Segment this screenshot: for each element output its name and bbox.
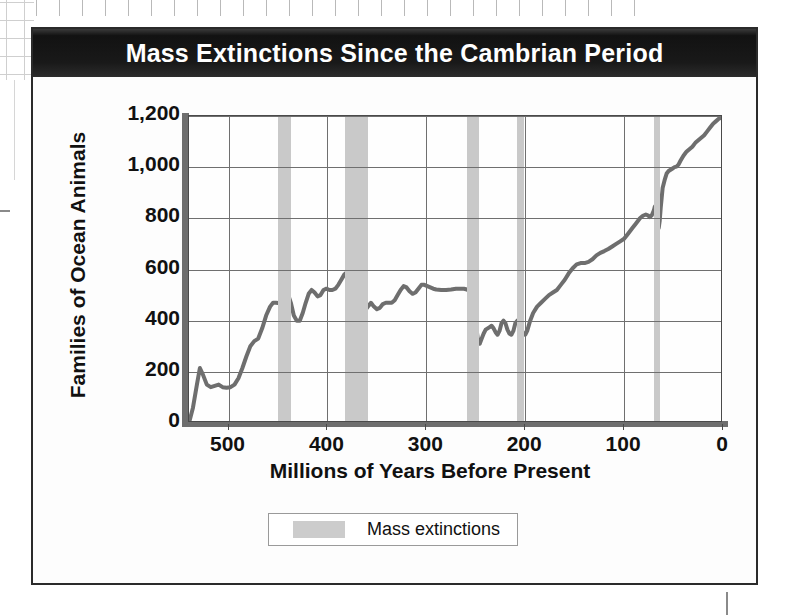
x-axis-tick-label: 0 xyxy=(677,432,767,456)
ruling-horizontal xyxy=(0,20,34,21)
ruling-horizontal xyxy=(0,56,34,57)
ruling-vertical xyxy=(6,0,7,80)
ruler-tick xyxy=(542,0,543,16)
mass-extinction-band xyxy=(278,116,291,421)
ruling-vertical xyxy=(24,0,25,80)
ruler-tick xyxy=(588,0,589,16)
legend-swatch-mass-extinctions xyxy=(293,521,345,538)
x-axis-tick-label: 100 xyxy=(578,432,668,456)
ruler-tick xyxy=(565,0,566,16)
ruling-horizontal xyxy=(0,38,34,39)
ruler-tick xyxy=(450,0,451,16)
ruler-tick xyxy=(105,0,106,16)
ruler-tick xyxy=(496,0,497,16)
ruler-tick xyxy=(289,0,290,16)
ruler-tick xyxy=(82,0,83,16)
ruling-vertical xyxy=(726,592,728,615)
page-title: Mass Extinctions Since the Cambrian Peri… xyxy=(126,39,664,68)
chart-title-bar: Mass Extinctions Since the Cambrian Peri… xyxy=(33,29,756,77)
y-axis-tick-label: 0 xyxy=(70,408,180,432)
ruler-tick xyxy=(36,0,37,16)
ruler-tick xyxy=(174,0,175,16)
ruler-tick xyxy=(197,0,198,16)
plot-area xyxy=(188,115,722,422)
gridline-vertical xyxy=(327,116,328,421)
ruler-tick xyxy=(335,0,336,16)
ruling-horizontal xyxy=(0,2,34,3)
legend-label-mass-extinctions: Mass extinctions xyxy=(367,519,500,540)
mass-extinction-band xyxy=(467,116,479,421)
gridline-vertical xyxy=(229,116,230,421)
ruler-tick xyxy=(519,0,520,16)
mass-extinction-band xyxy=(345,116,368,421)
ruling-horizontal xyxy=(0,210,10,212)
ruler-tick xyxy=(634,0,635,16)
gridline-horizontal xyxy=(189,372,721,373)
gridline-horizontal xyxy=(189,218,721,219)
x-axis-tick-mark xyxy=(425,424,426,430)
ruler-tick xyxy=(611,0,612,16)
ruler-tick xyxy=(151,0,152,16)
y-axis-tick-label: 1,000 xyxy=(70,152,180,176)
x-axis-tick-mark xyxy=(326,424,327,430)
mass-extinction-band xyxy=(517,116,524,421)
x-axis-tick-label: 200 xyxy=(479,432,569,456)
ruler-tick xyxy=(128,0,129,16)
ruler-tick xyxy=(381,0,382,16)
ruler-tick xyxy=(220,0,221,16)
ruler-tick xyxy=(358,0,359,16)
ruler-tick xyxy=(473,0,474,16)
x-axis-tick-label: 400 xyxy=(281,432,371,456)
chart-legend: Mass extinctions xyxy=(268,513,518,546)
ruler-tick xyxy=(427,0,428,16)
ruler-tick xyxy=(404,0,405,16)
x-axis-tick-mark xyxy=(228,424,229,430)
y-axis-tick-label: 1,200 xyxy=(70,101,180,125)
ruling-horizontal xyxy=(0,74,34,75)
gridline-vertical xyxy=(624,116,625,421)
x-axis-title: Millions of Years Before Present xyxy=(90,459,770,483)
y-axis-tick-label: 400 xyxy=(70,306,180,330)
x-axis-tick-mark xyxy=(722,424,723,430)
ruler-tick xyxy=(266,0,267,16)
ruling-vertical xyxy=(14,80,15,180)
gridline-horizontal xyxy=(189,270,721,271)
x-axis-tick-mark xyxy=(623,424,624,430)
x-axis-tick-label: 500 xyxy=(183,432,273,456)
mass-extinction-band xyxy=(654,116,660,421)
gridline-vertical xyxy=(426,116,427,421)
ruler-tick xyxy=(243,0,244,16)
gridline-horizontal xyxy=(189,116,721,117)
y-axis-tick-label: 800 xyxy=(70,203,180,227)
x-axis-tick-mark xyxy=(524,424,525,430)
gridline-horizontal xyxy=(189,321,721,322)
ruler-tick xyxy=(312,0,313,16)
x-axis-tick-label: 300 xyxy=(380,432,470,456)
y-axis-tick-label: 200 xyxy=(70,357,180,381)
y-axis-tick-label: 600 xyxy=(70,255,180,279)
ruler-tick xyxy=(59,0,60,16)
gridline-vertical xyxy=(525,116,526,421)
gridline-horizontal xyxy=(189,167,721,168)
